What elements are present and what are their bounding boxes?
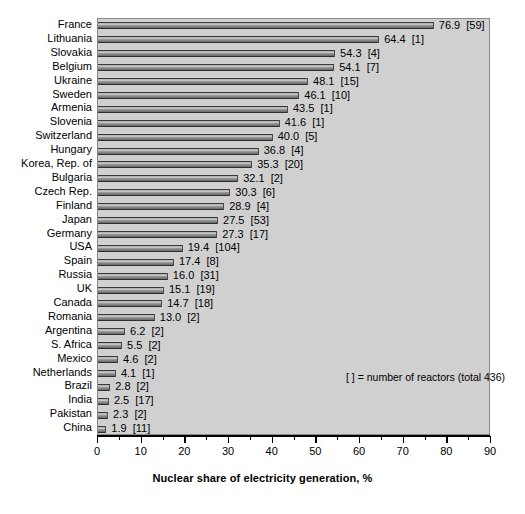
- category-label: Pakistan: [0, 407, 92, 421]
- x-tick-major: [228, 436, 229, 443]
- bar-value-label: 35.3 [20]: [257, 158, 303, 172]
- bar: [98, 384, 110, 391]
- bar-value-label: 54.3 [4]: [340, 47, 380, 61]
- x-tick-label: 30: [222, 445, 234, 457]
- category-label: Slovenia: [0, 115, 92, 129]
- bar: [98, 148, 259, 155]
- x-tick-major: [141, 436, 142, 443]
- category-label: Bulgaria: [0, 171, 92, 185]
- bar-row: 76.9 [59]: [98, 19, 489, 33]
- bar-value-label: 1.9 [11]: [111, 422, 150, 436]
- bar: [98, 314, 155, 321]
- bar-value-label: 6.2 [2]: [130, 325, 164, 339]
- bar-value-label: 30.3 [6]: [235, 186, 275, 200]
- x-tick-minor: [381, 436, 382, 440]
- category-label: S. Africa: [0, 338, 92, 352]
- category-label: India: [0, 393, 92, 407]
- x-tick-minor: [468, 436, 469, 440]
- bar: [98, 189, 230, 196]
- bar: [98, 370, 116, 377]
- bar-row: 14.7 [18]: [98, 297, 489, 311]
- bar: [98, 203, 224, 210]
- bar-row: 30.3 [6]: [98, 186, 489, 200]
- bar-row: 2.5 [17]: [98, 394, 489, 408]
- bar-value-label: 5.5 [2]: [127, 339, 161, 353]
- bar-value-label: 40.0 [5]: [278, 130, 318, 144]
- category-label: UK: [0, 282, 92, 296]
- category-label: Romania: [0, 310, 92, 324]
- bar-row: 27.3 [17]: [98, 228, 489, 242]
- bar: [98, 300, 162, 307]
- plot-area: 76.9 [59]64.4 [1]54.3 [4]54.1 [7]48.1 [1…: [97, 18, 490, 435]
- bar-value-label: 28.9 [4]: [229, 200, 269, 214]
- category-label: Finland: [0, 199, 92, 213]
- x-tick-major: [359, 436, 360, 443]
- bar-value-label: 2.8 [2]: [115, 380, 149, 394]
- bar: [98, 217, 218, 224]
- x-tick-major: [97, 436, 98, 443]
- bar-row: 40.0 [5]: [98, 130, 489, 144]
- x-tick-label: 80: [440, 445, 452, 457]
- category-label: Japan: [0, 213, 92, 227]
- category-label: USA: [0, 240, 92, 254]
- category-label: Russia: [0, 268, 92, 282]
- legend-annotation: [ ] = number of reactors (total 436): [346, 371, 505, 383]
- category-label: Korea, Rep. of: [0, 157, 92, 171]
- bar-row: 27.5 [53]: [98, 214, 489, 228]
- bar-row: 32.1 [2]: [98, 172, 489, 186]
- category-label: Belgium: [0, 60, 92, 74]
- x-tick-minor: [294, 436, 295, 440]
- x-tick-minor: [337, 436, 338, 440]
- bar-value-label: 2.5 [17]: [114, 394, 154, 408]
- category-label: Sweden: [0, 88, 92, 102]
- x-tick-major: [446, 436, 447, 443]
- bar-value-label: 64.4 [1]: [384, 33, 424, 47]
- x-tick-label: 50: [309, 445, 321, 457]
- bar-value-label: 46.1 [10]: [304, 89, 350, 103]
- bar: [98, 92, 299, 99]
- category-label: Netherlands: [0, 366, 92, 380]
- bar-row: 6.2 [2]: [98, 325, 489, 339]
- category-label: Spain: [0, 254, 92, 268]
- bar-value-label: 54.1 [7]: [339, 61, 379, 75]
- bar: [98, 78, 308, 85]
- category-label: Lithuania: [0, 32, 92, 46]
- bar-row: 19.4 [104]: [98, 241, 489, 255]
- x-tick-minor: [206, 436, 207, 440]
- category-label: Hungary: [0, 143, 92, 157]
- x-tick-minor: [119, 436, 120, 440]
- bar-value-label: 15.1 [19]: [169, 283, 215, 297]
- bar: [98, 106, 288, 113]
- category-label: Canada: [0, 296, 92, 310]
- bar: [98, 231, 217, 238]
- x-tick-label: 90: [484, 445, 496, 457]
- bar-value-label: 4.1 [1]: [121, 367, 155, 381]
- category-label: Armenia: [0, 101, 92, 115]
- bar: [98, 398, 109, 405]
- bar-row: 64.4 [1]: [98, 33, 489, 47]
- x-tick-label: 60: [353, 445, 365, 457]
- x-tick-major: [184, 436, 185, 443]
- chart-figure: 76.9 [59]64.4 [1]54.3 [4]54.1 [7]48.1 [1…: [0, 0, 525, 514]
- x-tick-major: [315, 436, 316, 443]
- bar-row: 48.1 [15]: [98, 75, 489, 89]
- bar-row: 36.8 [4]: [98, 144, 489, 158]
- bar: [98, 273, 168, 280]
- bar-value-label: 2.3 [2]: [113, 408, 147, 422]
- bar-value-label: 36.8 [4]: [264, 144, 304, 158]
- bar-value-label: 14.7 [18]: [167, 297, 213, 311]
- bar-value-label: 27.5 [53]: [223, 214, 269, 228]
- bar-value-label: 48.1 [15]: [313, 75, 359, 89]
- bar-row: 41.6 [1]: [98, 116, 489, 130]
- x-tick-label: 0: [94, 445, 100, 457]
- bar-row: 46.1 [10]: [98, 89, 489, 103]
- bar-row: 43.5 [1]: [98, 102, 489, 116]
- bar-row: 17.4 [8]: [98, 255, 489, 269]
- bar: [98, 120, 280, 127]
- category-label: Switzerland: [0, 129, 92, 143]
- category-label: Germany: [0, 227, 92, 241]
- x-axis-title: Nuclear share of electricity generation,…: [0, 472, 525, 484]
- x-tick-major: [403, 436, 404, 443]
- bar-row: 15.1 [19]: [98, 283, 489, 297]
- bar-value-label: 76.9 [59]: [439, 19, 485, 33]
